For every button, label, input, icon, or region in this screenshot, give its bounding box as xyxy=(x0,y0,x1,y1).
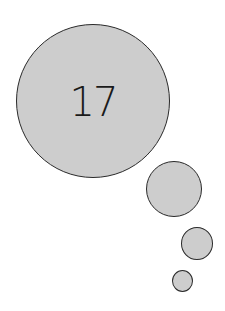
thought-bubble-tiny xyxy=(172,270,193,292)
thought-bubble-medium xyxy=(146,161,202,217)
bubble-number: 17 xyxy=(53,82,133,122)
thought-bubble-small xyxy=(181,227,213,260)
